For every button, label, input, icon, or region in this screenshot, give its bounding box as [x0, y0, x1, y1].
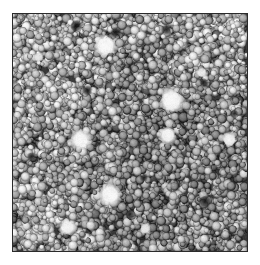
- figure-page: [0, 0, 260, 265]
- micrograph-image: [13, 14, 247, 251]
- micrograph-frame: [12, 13, 248, 252]
